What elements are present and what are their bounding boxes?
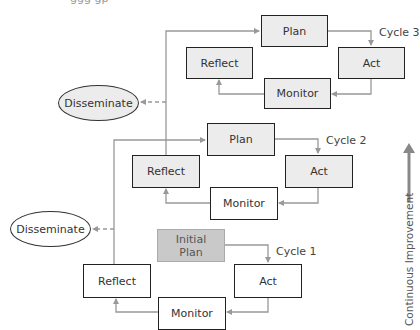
connector-c2-monitor-reflect	[166, 189, 210, 203]
cycle1-plan-label-line2: Plan	[179, 246, 202, 259]
cycle3-reflect-box: Reflect	[186, 47, 253, 79]
cycle3-plan-box: Plan	[261, 15, 328, 47]
cycle3-act-box: Act	[338, 47, 405, 79]
cycle2-label: Cycle 2	[326, 134, 367, 147]
cycle3-label: Cycle 3	[379, 26, 420, 39]
connector-c1-monitor-reflect	[116, 299, 158, 312]
cycle1-act-label: Act	[259, 275, 277, 288]
cycle2-plan-box: Plan	[207, 123, 275, 156]
cycle3-plan-label: Plan	[283, 25, 306, 38]
cycle2-reflect-box: Reflect	[132, 155, 200, 188]
cycle2-monitor-label: Monitor	[223, 197, 265, 210]
cycle1-act-box: Act	[234, 264, 302, 298]
cycle1-initial-plan-box: Initial Plan	[157, 229, 225, 262]
continuous-improvement-label: Continuous Improvement	[403, 193, 415, 326]
cycle1-reflect-box: Reflect	[83, 264, 151, 298]
connector-c3-plan-act	[327, 31, 371, 45]
cycle1-plan-label-line1: Initial	[176, 233, 206, 246]
connector-c2-act-monitor	[279, 187, 318, 203]
cycle1-label: Cycle 1	[276, 245, 317, 258]
connector-c1-plan-act	[224, 245, 268, 262]
connector-c1-act-monitor	[227, 297, 268, 312]
cycle3-monitor-box: Monitor	[264, 78, 331, 109]
cycle1-monitor-box: Monitor	[158, 297, 226, 330]
connector-c3-monitor-reflect	[219, 80, 264, 94]
cycle3-act-label: Act	[363, 57, 381, 70]
cycle1-monitor-label: Monitor	[171, 307, 213, 320]
connector-c3-act-monitor	[332, 78, 371, 94]
cycle3-monitor-label: Monitor	[277, 87, 319, 100]
cycle2-reflect-label: Reflect	[147, 165, 185, 178]
disseminate-ellipse-bottom: Disseminate	[10, 211, 91, 247]
connector-c2-plan-act	[274, 139, 318, 153]
disseminate-bottom-label: Disseminate	[16, 223, 84, 236]
cycle2-act-label: Act	[310, 165, 328, 178]
cycle1-reflect-label: Reflect	[98, 275, 136, 288]
cycle3-reflect-label: Reflect	[201, 57, 239, 70]
disseminate-ellipse-top: Disseminate	[58, 85, 139, 121]
cycle2-act-box: Act	[285, 155, 353, 188]
cycle2-plan-label: Plan	[229, 133, 252, 146]
cycle2-monitor-box: Monitor	[210, 187, 278, 220]
disseminate-top-label: Disseminate	[64, 97, 132, 110]
